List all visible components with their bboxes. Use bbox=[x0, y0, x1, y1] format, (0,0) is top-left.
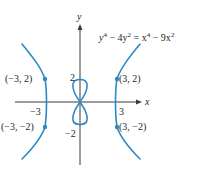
labels: y x 2 −2 −3 3 (−3, 2) (3, 2) (−3, −2) (3… bbox=[1, 11, 175, 139]
eq-eq: = x bbox=[131, 32, 147, 43]
point-neg3-2 bbox=[43, 77, 47, 81]
equation-label: y4 − 4y2 = x4 − 9x2 bbox=[98, 31, 175, 43]
axes bbox=[15, 24, 142, 165]
point-neg3-neg2 bbox=[43, 125, 47, 129]
eq-mid2-exp: 2 bbox=[171, 31, 175, 39]
y-axis-label: y bbox=[76, 11, 82, 22]
point-label-3-neg2: (3, −2) bbox=[119, 121, 146, 133]
tick-label-x-pos: 3 bbox=[119, 106, 124, 117]
point-label-neg3-neg2: (−3, −2) bbox=[1, 121, 34, 133]
x-axis-arrow-icon bbox=[136, 100, 142, 105]
tick-label-x-neg: −3 bbox=[30, 106, 41, 117]
y-axis-arrow-icon bbox=[78, 24, 83, 30]
eq-mid2: − 9x bbox=[150, 32, 171, 43]
tick-label-y-pos: 2 bbox=[70, 72, 75, 83]
point-label-neg3-2: (−3, 2) bbox=[5, 73, 32, 85]
eq-mid1: − 4y bbox=[107, 32, 128, 43]
point-label-3-2: (3, 2) bbox=[119, 73, 141, 85]
x-axis-label: x bbox=[144, 96, 150, 107]
implicit-curve-diagram: y x 2 −2 −3 3 (−3, 2) (3, 2) (−3, −2) (3… bbox=[0, 0, 199, 173]
tick-label-y-neg: −2 bbox=[65, 128, 76, 139]
